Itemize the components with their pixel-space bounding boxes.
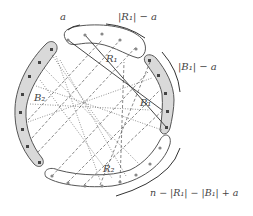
label-R1: R₁ [105, 53, 118, 64]
dotted-edges [28, 55, 162, 180]
label-B2: B₂ [33, 92, 45, 103]
label-b1-minus-a: |B₁| − a [178, 61, 217, 73]
group-r1-blob [64, 25, 145, 58]
label-remainder: n − |R₁| − |B₁| + a [150, 187, 239, 199]
label-B1: B₁ [139, 97, 151, 108]
label-r1-minus-a: |R₁| − a [118, 11, 157, 23]
group-b1-blob [144, 55, 174, 134]
label-R2: R₂ [102, 163, 115, 174]
bipartite-circle-diagram: a |R₁| − a |B₁| − a n − |R₁| − |B₁| + a … [0, 0, 253, 216]
label-a: a [60, 11, 66, 22]
